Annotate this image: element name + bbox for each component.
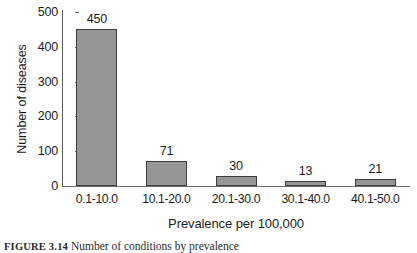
- bar-group[interactable]: 71: [146, 0, 187, 187]
- x-tick-label: 20.1-30.0: [201, 192, 271, 206]
- bar-value-label: 13: [299, 165, 313, 178]
- bar-value-label: 450: [87, 13, 107, 26]
- y-tick-label: 100: [24, 145, 58, 157]
- bar-rect[interactable]: [355, 179, 396, 186]
- y-tick-label: 300: [24, 76, 58, 88]
- x-axis-line: [62, 186, 410, 187]
- bar-group[interactable]: 13: [285, 0, 326, 187]
- bars-layer: 45071301321: [62, 0, 410, 187]
- bar-value-label: 71: [160, 145, 174, 158]
- figure-caption: FIGURE 3.14 Number of conditions by prev…: [4, 240, 417, 253]
- figure-caption-text: Number of conditions by prevalence: [71, 240, 239, 252]
- bar-group[interactable]: 30: [216, 0, 257, 187]
- y-tick-label: 0: [24, 180, 58, 192]
- x-tick-label: 40.1-50.0: [340, 192, 410, 206]
- figure-caption-label: FIGURE 3.14: [4, 241, 68, 252]
- y-tick-label: 400: [24, 41, 58, 53]
- bar-rect[interactable]: [146, 161, 187, 186]
- y-tick-label: 200: [24, 110, 58, 122]
- x-axis-tick-labels: 0.1-10.010.1-20.020.1-30.030.1-40.040.1-…: [62, 192, 410, 210]
- bar-rect[interactable]: [216, 176, 257, 186]
- bar-group[interactable]: 21: [355, 0, 396, 187]
- bar-value-label: 21: [368, 163, 382, 176]
- y-tick-label: 500: [24, 6, 58, 18]
- x-axis-title: Prevalence per 100,000: [62, 216, 410, 231]
- y-axis-ticks: 0100200300400500: [18, 0, 58, 250]
- bar-value-label: 30: [229, 160, 243, 173]
- x-tick-label: 0.1-10.0: [62, 192, 132, 206]
- x-tick-label: 30.1-40.0: [271, 192, 341, 206]
- bar-group[interactable]: 450: [76, 0, 117, 187]
- x-tick-label: 10.1-20.0: [132, 192, 202, 206]
- bar-rect[interactable]: [76, 29, 117, 186]
